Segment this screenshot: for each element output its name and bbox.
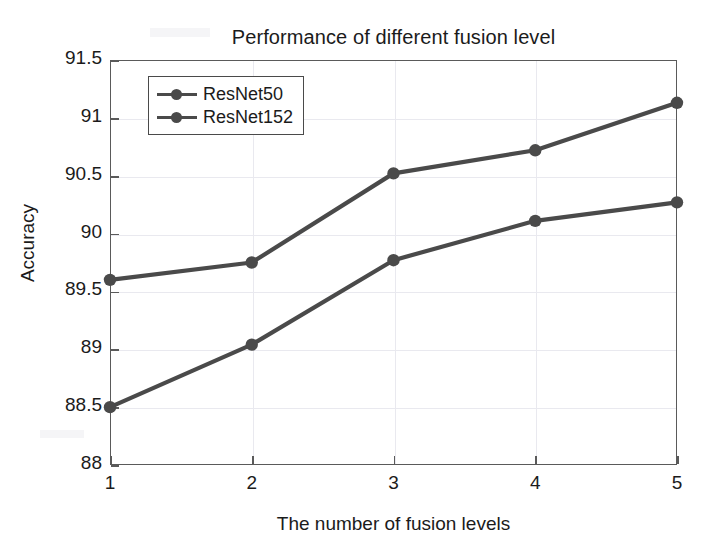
gridline-horizontal bbox=[111, 292, 676, 293]
legend-line-marker-icon bbox=[157, 110, 197, 124]
y-axis-tick-label: 88 bbox=[81, 452, 102, 474]
y-axis-tick-label: 89 bbox=[81, 336, 102, 358]
gridline-horizontal bbox=[111, 350, 676, 351]
chart-title: Performance of different fusion level bbox=[110, 26, 677, 49]
y-axis-tick bbox=[111, 234, 119, 236]
legend-line-marker-icon bbox=[157, 87, 197, 101]
gridline-horizontal bbox=[111, 235, 676, 236]
x-axis-tick-label: 5 bbox=[637, 472, 715, 494]
y-axis-tick bbox=[111, 407, 119, 409]
legend-label: ResNet50 bbox=[203, 85, 283, 103]
legend-label: ResNet152 bbox=[203, 108, 293, 126]
legend-item-resnet50: ResNet50 bbox=[157, 82, 293, 105]
gridline-vertical bbox=[395, 61, 396, 464]
scan-artefact bbox=[40, 430, 84, 438]
chart-figure: Performance of different fusion level 88… bbox=[0, 0, 715, 557]
gridline-horizontal bbox=[111, 408, 676, 409]
y-axis-title: Accuracy bbox=[17, 153, 39, 333]
x-axis-tick bbox=[394, 456, 396, 464]
x-axis-title: The number of fusion levels bbox=[110, 513, 677, 535]
y-axis-tick bbox=[111, 176, 119, 178]
x-axis-tick-label: 3 bbox=[354, 472, 434, 494]
x-axis-tick bbox=[535, 456, 537, 464]
y-axis-tick-label: 90 bbox=[81, 221, 102, 243]
chart-legend: ResNet50 ResNet152 bbox=[148, 76, 304, 135]
y-axis-tick bbox=[111, 465, 119, 467]
x-axis-tick bbox=[110, 456, 112, 464]
y-axis-tick-label: 91 bbox=[81, 105, 102, 127]
y-axis-tick-label: 88.5 bbox=[65, 394, 102, 416]
x-axis-tick-label: 2 bbox=[212, 472, 292, 494]
y-axis-tick bbox=[111, 60, 119, 62]
y-axis-tick-label: 90.5 bbox=[65, 163, 102, 185]
y-axis-tick bbox=[111, 349, 119, 351]
y-axis-tick bbox=[111, 118, 119, 120]
gridline-horizontal bbox=[111, 177, 676, 178]
y-axis-tick-label: 91.5 bbox=[65, 47, 102, 69]
x-axis-tick bbox=[677, 456, 679, 464]
x-axis-tick-label: 1 bbox=[70, 472, 150, 494]
x-axis-tick-label: 4 bbox=[495, 472, 575, 494]
gridline-vertical bbox=[536, 61, 537, 464]
y-axis-tick bbox=[111, 292, 119, 294]
x-axis-tick bbox=[252, 456, 254, 464]
y-axis-tick-label: 89.5 bbox=[65, 278, 102, 300]
legend-item-resnet152: ResNet152 bbox=[157, 105, 293, 128]
